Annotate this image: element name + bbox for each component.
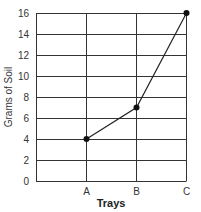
y-tick-label: 4 (23, 134, 29, 145)
chart-grid (36, 13, 187, 182)
y-tick-label: 16 (18, 8, 30, 19)
x-tick-label: C (183, 186, 190, 197)
y-tick-label: 0 (23, 176, 29, 187)
x-tick-label: A (83, 186, 90, 197)
y-tick-label: 10 (18, 71, 30, 82)
y-tick-label: 12 (18, 50, 30, 61)
y-axis-label: Grams of Soil (3, 67, 14, 128)
y-axis-ticks: 0246810121416 (18, 8, 30, 187)
x-axis-ticks: ABC (83, 186, 190, 197)
y-tick-label: 14 (18, 29, 30, 40)
y-tick-label: 6 (23, 113, 29, 124)
line-chart: 0246810121416 ABC Trays Grams of Soil (0, 0, 201, 212)
data-point-marker (134, 105, 140, 111)
x-tick-label: B (133, 186, 140, 197)
data-point-marker (184, 10, 190, 16)
x-axis-label: Trays (97, 197, 126, 209)
data-point-marker (84, 136, 90, 142)
y-tick-label: 8 (23, 92, 29, 103)
y-tick-label: 2 (23, 155, 29, 166)
